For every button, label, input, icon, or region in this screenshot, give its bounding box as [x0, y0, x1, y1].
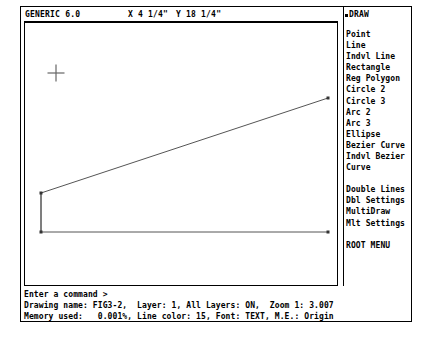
menu-item-arc-2[interactable]: Arc 2: [343, 107, 411, 118]
menu-item-curve[interactable]: Curve: [343, 162, 411, 173]
draw-menu-list[interactable]: PointLineIndvl LineRectangleReg PolygonC…: [343, 29, 411, 251]
menu-item-reg-polygon[interactable]: Reg Polygon: [343, 73, 411, 84]
status-line-memory-info: Memory used: 0.001%, Line color: 15, Fon…: [24, 311, 408, 322]
command-prompt[interactable]: Enter a command >: [24, 290, 408, 300]
crosshair-cursor: [48, 65, 65, 82]
drawing-canvas[interactable]: [24, 22, 338, 286]
drawing-shapes[interactable]: [41, 98, 328, 232]
coordinate-x-readout: X 4 1/4": [128, 10, 168, 20]
menu-item-bezier-curve[interactable]: Bezier Curve: [343, 140, 411, 151]
menu-group-spacer: [343, 229, 411, 240]
bullet-marker-icon: [345, 14, 348, 17]
vertex-right-lower: [327, 231, 330, 234]
menu-item-rectangle[interactable]: Rectangle: [343, 62, 411, 73]
drawing-canvas-svg[interactable]: [25, 23, 337, 285]
menu-title: DRAW: [349, 10, 369, 20]
top-info-bar: GENERIC 6.0 X 4 1/4" Y 18 1/4" DRAW: [21, 7, 411, 22]
vertex-left-lower: [40, 231, 43, 234]
vertex-left-upper: [40, 192, 43, 195]
menu-item-dbl-settings[interactable]: Dbl Settings: [343, 195, 411, 206]
menu-item-root-menu[interactable]: ROOT MENU: [343, 240, 411, 251]
menu-item-point[interactable]: Point: [343, 29, 411, 40]
vertex-right-upper: [327, 97, 330, 100]
menu-item-circle-3[interactable]: Circle 3: [343, 96, 411, 107]
drawing-vertices: [40, 97, 330, 234]
app-title: GENERIC 6.0: [25, 10, 80, 20]
status-line-drawing-info: Drawing name: FIG3-2, Layer: 1, All Laye…: [24, 300, 408, 311]
menu-item-circle-2[interactable]: Circle 2: [343, 84, 411, 95]
menu-item-multidraw[interactable]: MultiDraw: [343, 206, 411, 217]
roof-slope-polyline[interactable]: [41, 98, 328, 232]
coordinate-y-readout: Y 18 1/4": [176, 10, 221, 20]
menu-item-ellipse[interactable]: Ellipse: [343, 129, 411, 140]
menu-item-mlt-settings[interactable]: Mlt Settings: [343, 218, 411, 229]
menu-group-spacer: [343, 173, 411, 184]
menu-item-double-lines[interactable]: Double Lines: [343, 184, 411, 195]
application-window: GENERIC 6.0 X 4 1/4" Y 18 1/4" DRAW Poin…: [20, 6, 412, 322]
menu-item-indvl-bezier[interactable]: Indvl Bezier: [343, 151, 411, 162]
menu-item-indvl-line[interactable]: Indvl Line: [343, 51, 411, 62]
menu-item-line[interactable]: Line: [343, 40, 411, 51]
draw-menu-panel[interactable]: PointLineIndvl LineRectangleReg PolygonC…: [343, 22, 411, 286]
menu-item-arc-3[interactable]: Arc 3: [343, 118, 411, 129]
